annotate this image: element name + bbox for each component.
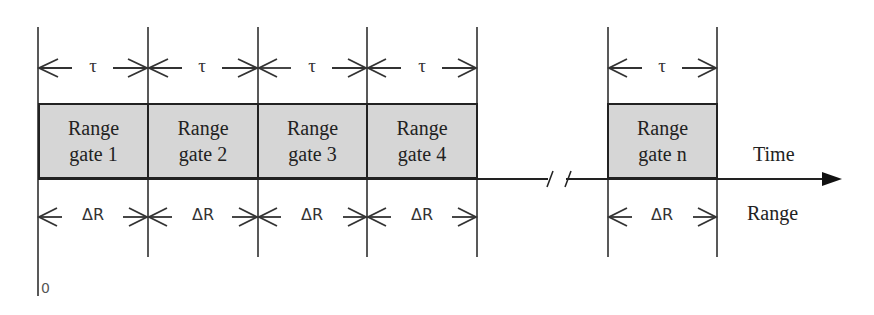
- tau-arrows: [39, 59, 716, 77]
- range-gate-2: Range gate 2: [147, 103, 259, 179]
- gate-label-line1: Range: [68, 115, 119, 141]
- range-gate-1: Range gate 1: [38, 103, 149, 179]
- gate-label-line2: gate 3: [288, 141, 336, 167]
- axis-arrow-icon: [822, 172, 842, 186]
- delta-r-symbol: ΔR: [301, 205, 323, 224]
- range-gate-4: Range gate 4: [366, 103, 478, 179]
- gate-label-line2: gate n: [638, 141, 686, 167]
- gate-label-line2: gate 2: [179, 141, 227, 167]
- tau-symbol: τ: [308, 55, 316, 77]
- gate-label-line1: Range: [637, 115, 688, 141]
- delta-r-symbol: ΔR: [651, 205, 673, 224]
- delta-r-arrows: [39, 208, 716, 226]
- gate-label-line2: gate 4: [398, 141, 446, 167]
- time-axis-label: Time: [753, 143, 795, 166]
- range-axis-label: Range: [747, 202, 798, 225]
- tau-symbol: τ: [89, 55, 97, 77]
- tau-symbol: τ: [198, 55, 206, 77]
- delta-r-symbol: ΔR: [82, 205, 104, 224]
- gate-label-line1: Range: [287, 115, 338, 141]
- tau-symbol: τ: [418, 55, 426, 77]
- origin-label: 0: [41, 280, 50, 296]
- range-gate-n: Range gate n: [607, 103, 718, 179]
- delta-r-symbol: ΔR: [411, 205, 433, 224]
- gate-label-line1: Range: [177, 115, 228, 141]
- gate-label-line1: Range: [396, 115, 447, 141]
- delta-r-symbol: ΔR: [192, 205, 214, 224]
- range-gate-3: Range gate 3: [257, 103, 368, 179]
- tau-symbol: τ: [658, 55, 666, 77]
- gate-label-line2: gate 1: [69, 141, 117, 167]
